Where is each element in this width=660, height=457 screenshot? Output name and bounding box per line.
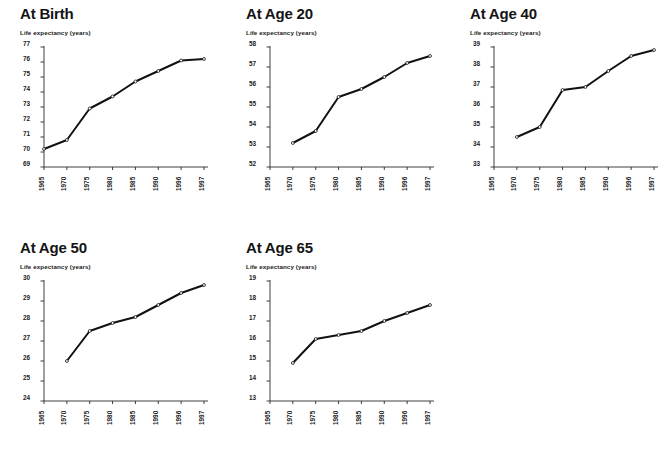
- data-point-marker: [337, 334, 340, 337]
- y-tick-label: 13: [228, 395, 256, 401]
- data-point-marker: [360, 330, 363, 333]
- x-tick-label: 1975: [310, 411, 316, 425]
- y-tick-label: 15: [228, 355, 256, 361]
- y-tick-label: 14: [228, 375, 256, 381]
- data-series-line: [293, 305, 430, 363]
- data-point-marker: [314, 338, 317, 341]
- x-tick-label: 1980: [333, 411, 339, 425]
- data-point-marker: [429, 304, 432, 307]
- x-tick-label: 1970: [287, 411, 293, 425]
- x-tick-label: 1985: [356, 411, 362, 425]
- y-tick-label: 17: [228, 315, 256, 321]
- y-tick-label: 19: [228, 275, 256, 281]
- chart-title: At Age 65: [246, 240, 313, 255]
- y-tick-label: 16: [228, 335, 256, 341]
- life-expectancy-chart-grid: At BirthLife expectancy (years)697071727…: [0, 0, 660, 457]
- x-tick-label: 1965: [265, 411, 271, 425]
- x-tick-label: 1996: [402, 411, 408, 425]
- chart-panel-5: At Age 65Life expectancy (years)13141516…: [0, 0, 660, 457]
- y-axis-label: Life expectancy (years): [246, 264, 317, 270]
- x-tick-label: 1990: [379, 411, 385, 425]
- data-point-marker: [291, 362, 294, 365]
- data-point-marker: [406, 312, 409, 315]
- y-tick-label: 18: [228, 295, 256, 301]
- x-tick-label: 1997: [425, 411, 431, 425]
- data-point-marker: [383, 320, 386, 323]
- plot-area: [262, 278, 436, 404]
